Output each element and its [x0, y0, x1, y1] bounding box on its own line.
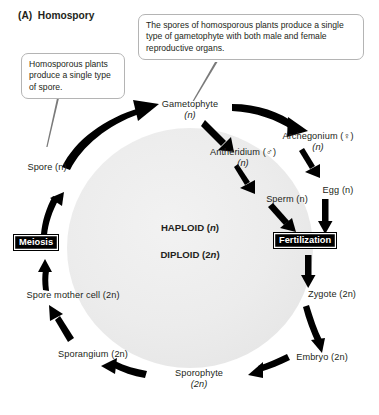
- label-spore-mother-cell-name: Spore mother cell (2n): [26, 290, 119, 300]
- label-sperm: Sperm (n): [266, 194, 308, 205]
- label-sporophyte: Sporophyte (2n): [175, 368, 223, 390]
- panel-tag: (A): [18, 10, 32, 21]
- label-archegonium-ploidy: (n): [312, 142, 324, 152]
- arrow-egg-to-fertilization: [322, 199, 329, 223]
- arrow-gametophyte-to-archegonium: [232, 104, 296, 130]
- label-haploid-suffix: ): [216, 222, 219, 233]
- label-sporangium: Sporangium (2n): [58, 349, 128, 360]
- process-box-meiosis: Meiosis: [13, 234, 59, 251]
- arrow-spore-mother-cell-to-meiosis: [42, 270, 49, 291]
- leader-line-gametophyte-callout: [193, 62, 218, 101]
- label-egg-name: Egg (n): [323, 185, 354, 195]
- page-title: (A) Homospory: [18, 10, 94, 21]
- arrowhead-sporophyte-to-sporangium: [101, 358, 117, 374]
- label-embryo: Embryo (2n): [296, 352, 348, 363]
- label-spore: Spore (n): [27, 162, 66, 173]
- label-egg: Egg (n): [323, 185, 354, 196]
- label-sperm-name: Sperm (n): [266, 194, 308, 204]
- label-gametophyte-ploidy: (n): [184, 110, 196, 120]
- label-diploid-prefix: DIPLOID (2: [160, 249, 210, 260]
- label-diploid: DIPLOID (2n): [160, 249, 219, 260]
- label-zygote: Zygote (2n): [308, 289, 356, 300]
- label-sporophyte-name: Sporophyte: [175, 368, 223, 378]
- process-box-meiosis-label: Meiosis: [19, 237, 53, 247]
- label-antheridium: Antheridium (♂) (n): [210, 147, 276, 169]
- label-sporophyte-ploidy: (2n): [191, 379, 208, 389]
- arrowhead-embryo-to-sporophyte: [248, 362, 263, 378]
- label-antheridium-name: Antheridium (♂): [210, 147, 276, 157]
- callout-gametophyte-text: The spores of homosporous plants produce…: [146, 20, 344, 53]
- arrow-sporophyte-to-sporangium: [112, 361, 147, 378]
- label-gametophyte-name: Gametophyte: [162, 99, 218, 109]
- arrowhead-zygote-to-embryo: [311, 338, 325, 353]
- callout-spore-text: Homosporous plants produce a single type…: [29, 59, 111, 92]
- label-antheridium-ploidy: (n): [237, 158, 249, 168]
- process-box-fertilization-label: Fertilization: [279, 235, 331, 245]
- arrow-zygote-to-embryo: [303, 305, 322, 343]
- callout-gametophyte: The spores of homosporous plants produce…: [138, 14, 364, 60]
- label-spore-name: Spore (n): [27, 162, 66, 172]
- label-embryo-name: Embryo (2n): [296, 352, 348, 362]
- arrowhead-spore-to-gametophyte: [133, 100, 159, 121]
- callout-spore: Homosporous plants produce a single type…: [21, 53, 125, 99]
- label-archegonium: Archegonium (♀) (n): [282, 131, 353, 153]
- label-archegonium-name: Archegonium (♀): [282, 131, 353, 141]
- label-spore-mother-cell: Spore mother cell (2n): [26, 290, 119, 301]
- panel-title-text: Homospory: [38, 10, 95, 21]
- label-sporangium-name: Sporangium (2n): [58, 349, 128, 359]
- arrow-fertilization-to-zygote: [305, 255, 312, 277]
- process-box-fertilization: Fertilization: [273, 232, 337, 249]
- leader-line-spore-callout: [46, 96, 59, 147]
- label-zygote-name: Zygote (2n): [308, 289, 356, 299]
- label-gametophyte: Gametophyte (n): [162, 99, 218, 121]
- label-diploid-suffix: ): [216, 249, 219, 260]
- label-haploid: HAPLOID (n): [161, 222, 219, 233]
- diagram-canvas: (A) Homospory Homosporous plants produce…: [0, 0, 379, 415]
- arrowhead-spore-mother-cell-to-meiosis: [38, 259, 52, 272]
- arrow-sporangium-to-spore-mother-cell: [55, 316, 74, 342]
- label-haploid-prefix: HAPLOID (: [161, 222, 210, 233]
